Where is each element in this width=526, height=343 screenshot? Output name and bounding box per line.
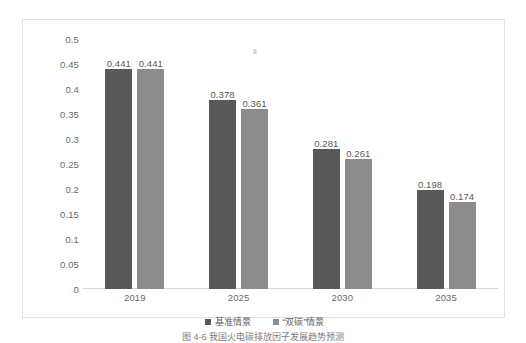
- chart-page: 0.5 0.45 0.4 0.35 0.3 0.25 0.2 0.15 0.1 …: [0, 0, 526, 343]
- bar-pair: 0.378 0.361: [208, 39, 270, 289]
- bar-wrap: 0.441: [137, 39, 164, 289]
- bar-value-label: 0.441: [107, 58, 131, 69]
- bar-wrap: 0.378: [209, 39, 236, 289]
- y-axis: 0.5 0.45 0.4 0.35 0.3 0.25 0.2 0.15 0.1 …: [45, 39, 79, 289]
- x-axis-tick-2030: 2030: [291, 292, 395, 303]
- y-axis-tick: 0.15: [60, 209, 79, 220]
- bar-group-2035: 0.198 0.174: [394, 39, 498, 289]
- y-axis-tick: 0.2: [65, 184, 79, 195]
- bar-pair: 0.441 0.441: [104, 39, 166, 289]
- bar-value-label: 0.261: [346, 148, 370, 159]
- y-axis-tick: 0.05: [60, 259, 79, 270]
- bar-value-label: 0.198: [418, 179, 442, 190]
- y-axis-tick: 0: [74, 284, 79, 295]
- legend-item-baseline[interactable]: 基准情景: [205, 315, 251, 328]
- y-axis-tick: 0.25: [60, 159, 79, 170]
- bar-value-label: 0.361: [242, 98, 266, 109]
- x-axis: 2019 2025 2030 2035: [83, 292, 498, 303]
- bar-baseline-2019[interactable]: [105, 69, 132, 290]
- bar-wrap: 0.361: [241, 39, 268, 289]
- bar-dualcarbon-2019[interactable]: [137, 69, 164, 290]
- legend-swatch-icon: [273, 319, 279, 325]
- legend-swatch-icon: [205, 319, 211, 325]
- legend-item-dualcarbon[interactable]: “双碳”情景: [273, 315, 325, 328]
- bar-value-label: 0.174: [450, 191, 474, 202]
- bar-dualcarbon-2035[interactable]: [449, 202, 476, 289]
- bar-value-label: 0.441: [139, 58, 163, 69]
- bar-artifact-mark: [253, 49, 256, 54]
- bar-baseline-2025[interactable]: [209, 100, 236, 289]
- bar-wrap: 0.441: [105, 39, 132, 289]
- x-axis-tick-2019: 2019: [83, 292, 187, 303]
- bar-wrap: 0.281: [313, 39, 340, 289]
- bar-baseline-2035[interactable]: [417, 190, 444, 289]
- bar-groups: 0.441 0.441 0.378 0.361: [83, 39, 498, 289]
- bar-group-2019: 0.441 0.441: [83, 39, 187, 289]
- x-axis-tick-2025: 2025: [187, 292, 291, 303]
- chart-frame: 0.5 0.45 0.4 0.35 0.3 0.25 0.2 0.15 0.1 …: [22, 19, 505, 318]
- chart-legend: 基准情景 “双碳”情景: [23, 315, 506, 328]
- bar-wrap: 0.174: [449, 39, 476, 289]
- y-axis-tick: 0.1: [65, 234, 79, 245]
- bar-dualcarbon-2025[interactable]: [241, 109, 268, 290]
- y-axis-tick: 0.3: [65, 134, 79, 145]
- figure-caption: 图 4-6 我国火电碳排放因子发展趋势预测: [0, 330, 526, 343]
- bar-wrap: 0.261: [345, 39, 372, 289]
- bar-group-2030: 0.281 0.261: [291, 39, 395, 289]
- y-axis-tick: 0.35: [60, 109, 79, 120]
- bar-dualcarbon-2030[interactable]: [345, 159, 372, 290]
- bar-value-label: 0.281: [314, 138, 338, 149]
- y-axis-tick: 0.5: [65, 34, 79, 45]
- bar-baseline-2030[interactable]: [313, 149, 340, 290]
- legend-label: “双碳”情景: [283, 315, 325, 328]
- bar-group-2025: 0.378 0.361: [187, 39, 291, 289]
- y-axis-tick: 0.4: [65, 84, 79, 95]
- y-axis-tick: 0.45: [60, 59, 79, 70]
- bar-pair: 0.198 0.174: [415, 39, 477, 289]
- bar-value-label: 0.378: [210, 89, 234, 100]
- legend-label: 基准情景: [215, 315, 251, 328]
- x-axis-tick-2035: 2035: [394, 292, 498, 303]
- bar-wrap: 0.198: [417, 39, 444, 289]
- bar-pair: 0.281 0.261: [311, 39, 373, 289]
